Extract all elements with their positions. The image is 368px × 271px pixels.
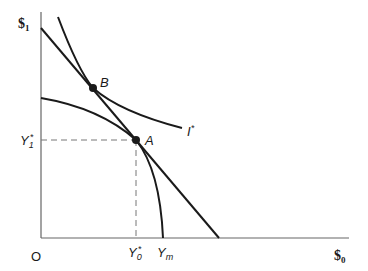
ym-label: Ym (157, 246, 173, 262)
y-axis-label: $1 (18, 17, 30, 33)
y0-star-label: Y0* (128, 245, 141, 262)
point-b-marker (89, 84, 97, 92)
diagram-canvas (0, 0, 368, 271)
indifference-curve-label: I* (187, 124, 194, 138)
point-b-label: B (100, 76, 109, 89)
indifference-curve (58, 17, 182, 128)
y1-star-label: Y1* (20, 133, 33, 150)
point-a-marker (132, 136, 140, 144)
production-possibility-curve (41, 98, 163, 238)
point-a-label: A (145, 134, 154, 147)
origin-label: O (31, 250, 41, 263)
x-axis-label: $0 (334, 249, 346, 265)
